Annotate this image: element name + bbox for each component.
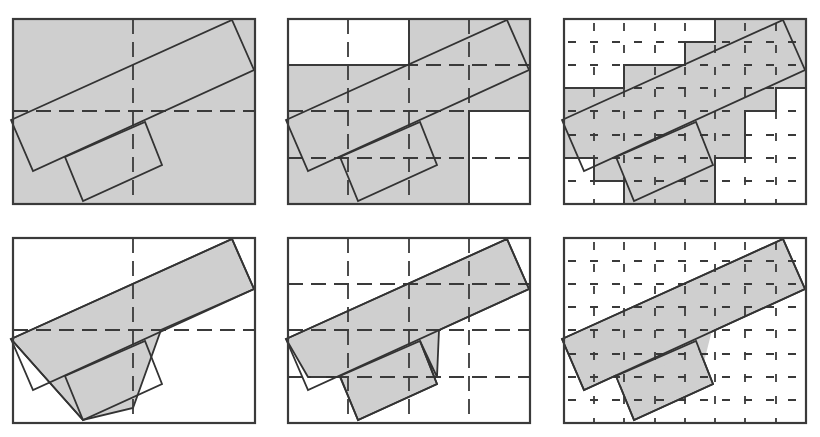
panel-bottom-left [13, 238, 256, 424]
panel-bottom-right [564, 238, 807, 424]
panel-top-left [13, 19, 256, 205]
panel-bottom-middle [288, 238, 531, 424]
panel-top-right [564, 19, 807, 205]
panel-top-middle [288, 19, 531, 205]
